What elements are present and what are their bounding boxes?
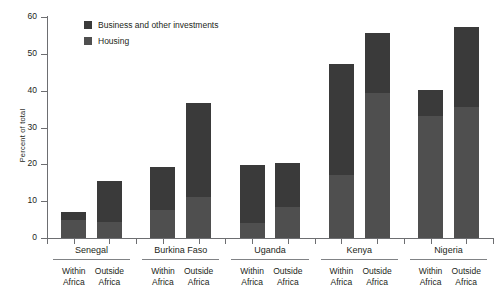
bar-segment-housing [329, 175, 354, 238]
legend-label-housing: Housing [98, 37, 129, 46]
bar-segment-housing [186, 197, 211, 238]
x-tick-mark [163, 238, 164, 244]
bar-segment-housing [365, 93, 390, 238]
x-axis-line [47, 238, 494, 239]
bar-segment-business [454, 27, 479, 107]
x-tick-mark [288, 238, 289, 244]
bar [365, 33, 390, 238]
x-group-separator-tick [404, 238, 405, 244]
bar [275, 163, 300, 239]
legend-item-business: Business and other investments [84, 21, 218, 30]
x-tick-mark [74, 238, 75, 244]
bar-segment-housing [61, 220, 86, 238]
bar-segment-business [275, 163, 300, 208]
bar-segment-business [186, 103, 211, 197]
bar-segment-housing [454, 107, 479, 238]
bar-segment-business [150, 167, 175, 210]
y-tick-label: 20 [0, 159, 37, 168]
legend-label-business: Business and other investments [98, 21, 218, 30]
x-tick-mark [341, 238, 342, 244]
bar-segment-business [329, 64, 354, 175]
group-name-label: Burkina Faso [136, 245, 225, 256]
bar [97, 181, 122, 238]
x-group-separator-tick [493, 238, 494, 244]
x-group-separator-tick [315, 238, 316, 244]
y-tick-label: 50 [0, 49, 37, 58]
bar [454, 27, 479, 238]
y-tick-label: 30 [0, 123, 37, 132]
bar-segment-housing [418, 116, 443, 238]
y-tick-label: 60 [0, 12, 37, 21]
x-tick-mark [431, 238, 432, 244]
x-sub-label: OutsideAfrica [439, 266, 493, 289]
x-sub-label: OutsideAfrica [261, 266, 315, 289]
x-sub-label: OutsideAfrica [350, 266, 404, 289]
bar-segment-housing [97, 222, 122, 238]
bar-segment-business [418, 90, 443, 117]
bar-segment-housing [150, 210, 175, 238]
bar [186, 103, 211, 238]
bar-segment-housing [240, 223, 265, 238]
x-sub-label: OutsideAfrica [172, 266, 226, 289]
x-group-separator-tick [225, 238, 226, 244]
legend-item-housing: Housing [84, 37, 218, 46]
bar [150, 167, 175, 238]
group-rule [410, 259, 487, 260]
x-tick-mark [377, 238, 378, 244]
x-group-separator-tick [47, 238, 48, 244]
x-tick-mark [466, 238, 467, 244]
y-tick-label: 10 [0, 196, 37, 205]
bar-segment-business [61, 212, 86, 220]
x-group-separator-tick [136, 238, 137, 244]
group-rule [321, 259, 398, 260]
bar-segment-business [97, 181, 122, 222]
bar-segment-housing [275, 207, 300, 238]
bar-segment-business [365, 33, 390, 93]
legend-swatch-housing-icon [84, 37, 92, 45]
chart-legend: Business and other investments Housing [84, 21, 218, 52]
group-name-label: Senegal [47, 245, 136, 256]
x-tick-mark [109, 238, 110, 244]
bar [418, 90, 443, 238]
x-tick-mark [199, 238, 200, 244]
bar [240, 165, 265, 238]
group-rule [142, 259, 219, 260]
group-name-label: Kenya [315, 245, 404, 256]
legend-swatch-business-icon [84, 21, 92, 29]
x-sub-label: OutsideAfrica [82, 266, 136, 289]
bar [329, 64, 354, 238]
y-tick-label: 40 [0, 86, 37, 95]
group-name-label: Nigeria [404, 245, 493, 256]
group-rule [231, 259, 308, 260]
y-tick-label: 0 [0, 233, 37, 242]
x-tick-mark [252, 238, 253, 244]
bar [61, 211, 86, 238]
group-rule [53, 259, 130, 260]
group-name-label: Uganda [225, 245, 314, 256]
bar-segment-business [240, 165, 265, 223]
y-axis-label: Percent of total [18, 81, 27, 191]
chart-canvas: Percent of total 6050403020100 WithinAfr… [0, 0, 500, 302]
